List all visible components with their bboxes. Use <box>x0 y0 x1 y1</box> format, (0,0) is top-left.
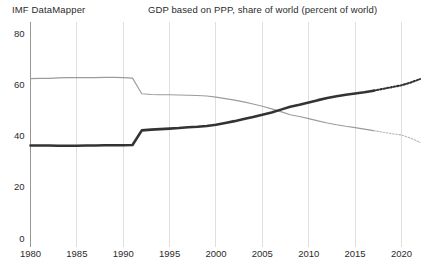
x-tick-label: 1990 <box>113 248 134 259</box>
chart-header: IMF DataMapper GDP based on PPP, share o… <box>0 0 428 22</box>
imf-datamapper-chart: IMF DataMapper GDP based on PPP, share o… <box>0 0 428 269</box>
x-tick-label: 2010 <box>298 248 319 259</box>
x-tick-label: 1995 <box>159 248 180 259</box>
page-title: GDP based on PPP, share of world (percen… <box>148 4 377 15</box>
y-tick-label: 40 <box>14 130 25 141</box>
chart-svg: 020406080 <box>0 22 428 247</box>
x-tick-label: 2005 <box>252 248 273 259</box>
plot-area: 020406080 <box>0 22 428 247</box>
x-tick-label: 2000 <box>205 248 226 259</box>
x-axis-tick-labels: 198019851990199520002005201020152020 <box>20 248 412 259</box>
y-axis-tick-labels: 020406080 <box>14 28 25 244</box>
gridlines <box>77 22 402 247</box>
x-tick-label: 1980 <box>20 248 41 259</box>
x-tick-label: 1985 <box>66 248 87 259</box>
series-projection-advanced <box>374 131 420 143</box>
x-axis-band: 198019851990199520002005201020152020 <box>0 247 428 269</box>
brand-label: IMF DataMapper <box>12 4 85 15</box>
series-projection-emerging <box>374 79 420 91</box>
series-line-emerging <box>31 91 374 146</box>
x-tick-label: 2015 <box>345 248 366 259</box>
y-tick-label: 60 <box>14 79 25 90</box>
data-series <box>31 77 421 145</box>
y-tick-label: 0 <box>19 233 24 244</box>
y-tick-label: 80 <box>14 28 25 39</box>
x-tick-label: 2020 <box>391 248 412 259</box>
series-line-advanced <box>31 77 374 130</box>
y-tick-label: 20 <box>14 181 25 192</box>
x-axis-svg: 198019851990199520002005201020152020 <box>0 247 428 269</box>
